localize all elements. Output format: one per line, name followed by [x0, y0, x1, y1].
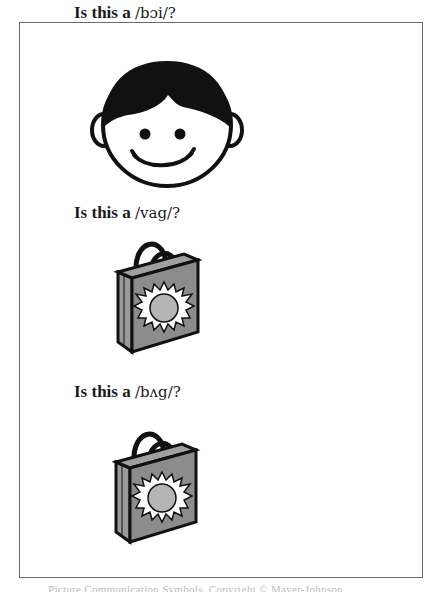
question-prefix: Is this a: [74, 382, 131, 401]
shopping-bag-icon: [114, 232, 214, 357]
ipa-transcription: /vag/?: [135, 204, 180, 222]
ipa-transcription: /bɔi/?: [135, 4, 176, 22]
question-bug: Is this a /bʌg/?: [74, 382, 181, 402]
copyright-footer: Picture Communication Symbols. Copyright…: [48, 583, 408, 592]
ipa-transcription: /bʌg/?: [135, 383, 181, 401]
question-vag: Is this a /vag/?: [74, 203, 180, 223]
question-boy: Is this a /bɔi/?: [74, 3, 176, 23]
shopping-bag-icon: [112, 422, 212, 547]
question-prefix: Is this a: [74, 3, 131, 22]
question-prefix: Is this a: [74, 203, 131, 222]
boy-face-icon: [88, 55, 248, 190]
